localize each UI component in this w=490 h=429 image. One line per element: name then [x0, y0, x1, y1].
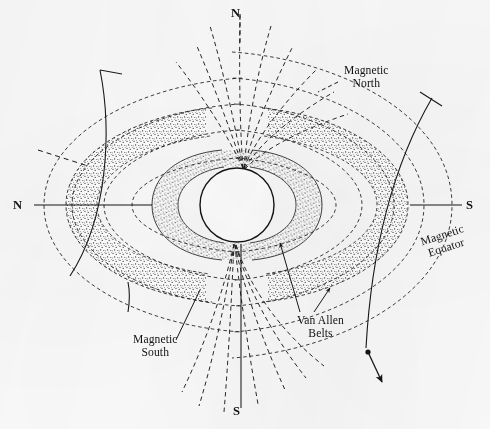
label-geographic-north-left: N [13, 198, 22, 212]
label-magnetic-south-line1: Magnetic [133, 333, 178, 346]
label-van-allen-belts-line2: Belts [297, 327, 344, 340]
earth-globe [200, 168, 274, 242]
figure-canvas: N S N S Magnetic North Magnetic South Ma… [0, 0, 490, 429]
label-magnetic-north-line2: North [344, 77, 389, 90]
label-geographic-south-bottom: S [233, 404, 240, 418]
label-geographic-north-top: N [231, 6, 240, 20]
label-magnetic-south: Magnetic South [133, 333, 178, 359]
label-van-allen-belts: Van Allen Belts [297, 314, 344, 340]
label-van-allen-belts-line1: Van Allen [297, 314, 344, 327]
label-magnetic-north-line1: Magnetic [344, 64, 389, 77]
magnetic-field-diagram [0, 0, 490, 429]
label-magnetic-south-line2: South [133, 346, 178, 359]
label-magnetic-north: Magnetic North [344, 64, 389, 90]
label-geographic-south-right: S [466, 198, 473, 212]
